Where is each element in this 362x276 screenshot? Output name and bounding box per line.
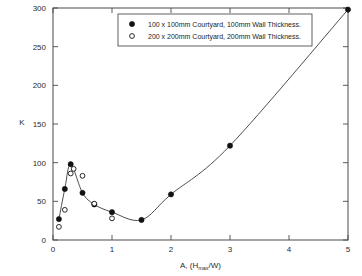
x-tick-label: 3: [228, 245, 233, 254]
series-markers-200mm: [57, 166, 115, 229]
x-tick-label: 0: [51, 245, 56, 254]
y-tick-label: 0: [42, 236, 47, 245]
legend-box: [118, 14, 312, 46]
legend-marker-filled-circle-icon: [129, 21, 134, 26]
legend-label: 200 x 200mm Courtyard, 200mm Wall Thickn…: [148, 33, 301, 41]
data-point-filled: [109, 210, 114, 215]
legend: 100 x 100mm Courtyard, 100mm Wall Thickn…: [118, 14, 312, 46]
data-point-filled: [227, 143, 232, 148]
data-point-open: [68, 171, 73, 176]
x-axis-title-prefix: A, (H: [180, 261, 198, 270]
data-point-filled: [139, 217, 144, 222]
y-tick-label: 250: [33, 43, 47, 52]
data-point-filled: [168, 192, 173, 197]
x-tick-label: 4: [287, 245, 292, 254]
data-point-open: [57, 224, 62, 229]
data-point-filled: [80, 190, 85, 195]
x-tick-label: 5: [346, 245, 351, 254]
y-tick-label: 200: [33, 81, 47, 90]
y-axis-title: K: [19, 118, 25, 127]
data-point-open: [71, 166, 76, 171]
x-axis-title: A, (Hmax/W): [180, 261, 221, 271]
data-point-filled: [62, 186, 67, 191]
data-point-filled: [68, 162, 73, 167]
x-axis-title-suffix: /W): [209, 261, 222, 270]
x-axis-title-subscript: max: [198, 265, 209, 271]
y-tick-label: 150: [33, 120, 47, 129]
legend-label: 100 x 100mm Courtyard, 100mm Wall Thickn…: [148, 21, 301, 29]
chart-container: 050100150200250300012345KA, (Hmax/W)100 …: [0, 0, 362, 276]
data-point-filled: [345, 7, 350, 12]
data-point-open: [92, 201, 97, 206]
data-point-open: [62, 207, 67, 212]
y-tick-label: 100: [33, 159, 47, 168]
data-point-open: [110, 216, 115, 221]
x-tick-label: 2: [169, 245, 174, 254]
x-tick-label: 1: [110, 245, 115, 254]
y-tick-label: 50: [37, 197, 46, 206]
plot-area: 050100150200250300012345KA, (Hmax/W)100 …: [19, 4, 350, 271]
legend-marker-open-circle-icon: [130, 34, 135, 39]
data-point-open: [80, 173, 85, 178]
scatter-plot: 050100150200250300012345KA, (Hmax/W)100 …: [0, 0, 362, 276]
data-point-filled: [56, 217, 61, 222]
y-tick-label: 300: [33, 4, 47, 13]
